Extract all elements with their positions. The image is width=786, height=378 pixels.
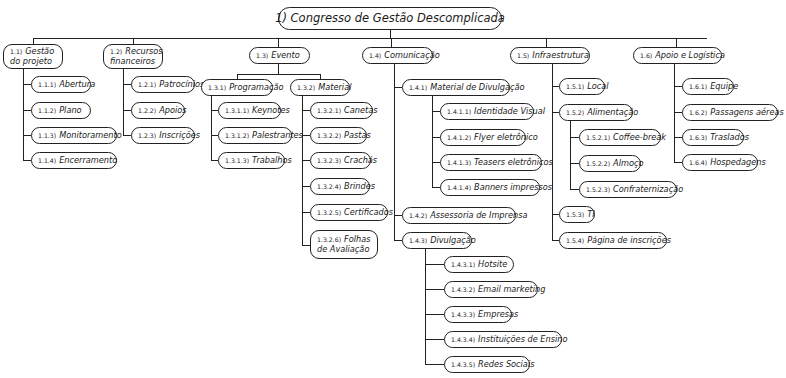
wbs-node-1-3-2-6[interactable]: 1.3.2.6)Folhas de Avaliação bbox=[310, 230, 378, 259]
wbs-node-1-6-3[interactable]: 1.6.3)Traslados bbox=[682, 129, 744, 146]
node-number: 1.3.2.2) bbox=[317, 132, 341, 139]
connector bbox=[432, 162, 440, 163]
connector bbox=[425, 264, 444, 265]
connector bbox=[570, 189, 579, 190]
node-label: 1.2)Recursos financeiros bbox=[110, 47, 163, 66]
node-label: Material de Divulgação bbox=[430, 83, 524, 92]
wbs-node-1-1-1[interactable]: 1.1.1)Abertura bbox=[31, 76, 91, 93]
wbs-node-1-4-3-4[interactable]: 1.4.3.4)Instituições de Ensino bbox=[444, 331, 562, 348]
wbs-node-1-5-1[interactable]: 1.5.1)Local bbox=[559, 78, 605, 95]
wbs-node-1-5[interactable]: 1.5)Infraestrutura bbox=[510, 47, 590, 64]
wbs-node-1-5-2-3[interactable]: 1.5.2.3)Confraternização bbox=[579, 181, 677, 198]
wbs-node-1-3-2-2[interactable]: 1.3.2.2)Pastas bbox=[310, 127, 367, 144]
wbs-node-1-4-1-3[interactable]: 1.4.1.3)Teasers eletrônicos bbox=[440, 154, 542, 171]
connector bbox=[394, 64, 395, 240]
wbs-node-1-3-2-4[interactable]: 1.3.2.4)Brindes bbox=[310, 178, 370, 195]
node-label: Programação bbox=[229, 83, 283, 92]
node-label: Keynotes bbox=[252, 106, 290, 115]
node-label: Inscrições bbox=[159, 131, 200, 140]
node-label: Email marketing bbox=[478, 285, 545, 294]
node-label: Apoios bbox=[159, 106, 186, 115]
wbs-node-1-5-2[interactable]: 1.5.2)Alimentação bbox=[559, 104, 633, 121]
wbs-node-1-6[interactable]: 1.6)Apoio e Logística bbox=[633, 47, 722, 64]
connector bbox=[302, 245, 310, 246]
wbs-node-1-3-2-1[interactable]: 1.3.2.1)Canetas bbox=[310, 102, 373, 119]
node-number: 1.6.1) bbox=[689, 83, 707, 90]
node-label: Assessoria de Imprensa bbox=[430, 211, 527, 220]
node-number: 1.4.3) bbox=[409, 237, 427, 244]
wbs-node-1-3-2-3[interactable]: 1.3.2.3)Crachás bbox=[310, 152, 371, 169]
connector bbox=[674, 137, 682, 138]
connector bbox=[432, 111, 440, 112]
node-number: 1.1.4) bbox=[38, 157, 56, 164]
node-number: 1.4.3.4) bbox=[451, 336, 475, 343]
wbs-node-1-4-1-2[interactable]: 1.4.1.2)Flyer eletrônico bbox=[440, 129, 526, 146]
connector bbox=[546, 38, 547, 47]
wbs-node-1-5-3[interactable]: 1.5.3)TI bbox=[559, 206, 595, 223]
connector bbox=[394, 240, 402, 241]
wbs-node-1-4-3[interactable]: 1.4.3)Divulgação bbox=[402, 232, 472, 249]
node-label: Apoio e Logística bbox=[655, 51, 725, 60]
connector bbox=[123, 68, 124, 135]
connector bbox=[570, 137, 579, 138]
node-number: 1.4.1.4) bbox=[447, 184, 471, 191]
node-number: 1.3.2.1) bbox=[317, 107, 341, 114]
wbs-node-1-4-1[interactable]: 1.4.1)Material de Divulgação bbox=[402, 79, 510, 96]
wbs-node-1-6-2[interactable]: 1.6.2)Passagens aéreas bbox=[682, 104, 778, 121]
wbs-node-1-6-4[interactable]: 1.6.4)Hospedagens bbox=[682, 154, 758, 171]
wbs-node-1-5-4[interactable]: 1.5.4)Página de inscrições bbox=[559, 232, 667, 249]
wbs-node-1-1-4[interactable]: 1.1.4)Encerramento bbox=[31, 152, 117, 169]
connector bbox=[425, 249, 426, 364]
wbs-node-1-2-3[interactable]: 1.2.3)Inscrições bbox=[131, 127, 195, 144]
node-label: 1.1)Gestão do projeto bbox=[10, 47, 56, 66]
wbs-node-1-6-1[interactable]: 1.6.1)Equipe bbox=[682, 78, 734, 95]
node-number: 1.5.2.2) bbox=[586, 160, 610, 167]
node-number: 1.4.2) bbox=[409, 212, 427, 219]
node-label: Hospedagens bbox=[710, 158, 766, 167]
wbs-node-1-1-3[interactable]: 1.1.3)Monitoramento bbox=[31, 127, 117, 144]
wbs-node-1-3-1[interactable]: 1.3.1)Programação bbox=[201, 79, 273, 96]
wbs-node-1-3-2-5[interactable]: 1.3.2.5)Certificados bbox=[310, 204, 388, 221]
wbs-node-1-4[interactable]: 1.4)Comunicação bbox=[362, 47, 433, 64]
connector bbox=[237, 74, 320, 75]
wbs-node-1-1[interactable]: 1.1)Gestão do projeto bbox=[3, 44, 63, 69]
wbs-node-1-5-2-1[interactable]: 1.5.2.1)Coffee-break bbox=[579, 129, 661, 146]
connector bbox=[23, 135, 31, 136]
wbs-node-1-3-1-1[interactable]: 1.3.1.1)Keynotes bbox=[218, 102, 281, 119]
node-number: 1.5.3) bbox=[566, 211, 584, 218]
node-number: 1.5.4) bbox=[566, 237, 584, 244]
wbs-node-1-1-2[interactable]: 1.1.2)Plano bbox=[31, 102, 91, 119]
wbs-node-1-5-2-2[interactable]: 1.5.2.2)Almoço bbox=[579, 155, 641, 172]
wbs-node-1-4-2[interactable]: 1.4.2)Assessoria de Imprensa bbox=[402, 207, 516, 224]
wbs-node-1-3-1-2[interactable]: 1.3.1.2)Palestrantes bbox=[218, 127, 292, 144]
wbs-root-node[interactable]: 1) Congresso de Gestão Descomplicada bbox=[278, 7, 502, 30]
wbs-node-1-4-3-5[interactable]: 1.4.3.5)Redes Sociais bbox=[444, 356, 530, 373]
wbs-node-1-2-2[interactable]: 1.2.2)Apoios bbox=[131, 102, 185, 119]
node-number: 1.2.1) bbox=[138, 81, 156, 88]
wbs-node-1-4-3-3[interactable]: 1.4.3.3)Empresas bbox=[444, 306, 512, 323]
node-label: Alimentação bbox=[587, 108, 638, 117]
node-label: Equipe bbox=[710, 82, 738, 91]
node-number: 1.2.3) bbox=[138, 132, 156, 139]
node-number: 1.1.2) bbox=[38, 107, 56, 114]
connector bbox=[302, 135, 310, 136]
wbs-node-1-2-1[interactable]: 1.2.1)Patrocínios bbox=[131, 76, 195, 93]
wbs-node-1-4-3-1[interactable]: 1.4.3.1)Hotsite bbox=[444, 256, 514, 273]
connector bbox=[390, 30, 391, 38]
node-label: Identidade Visual bbox=[474, 107, 545, 116]
node-number: 1.4.3.2) bbox=[451, 286, 475, 293]
wbs-node-1-4-1-1[interactable]: 1.4.1.1)Identidade Visual bbox=[440, 103, 534, 120]
wbs-node-1-2[interactable]: 1.2)Recursos financeiros bbox=[103, 44, 163, 69]
node-label: Canetas bbox=[344, 106, 377, 115]
wbs-node-1-4-1-4[interactable]: 1.4.1.4)Banners impressos bbox=[440, 179, 540, 196]
wbs-node-1-4-3-2[interactable]: 1.4.3.2)Email marketing bbox=[444, 281, 538, 298]
node-label: 1.3.2.6)Folhas de Avaliação bbox=[317, 235, 371, 254]
node-label: Instituições de Ensino bbox=[478, 335, 567, 344]
wbs-node-1-3[interactable]: 1.3)Evento bbox=[249, 47, 310, 64]
node-label: Crachás bbox=[344, 156, 377, 165]
wbs-node-1-3-2[interactable]: 1.3.2)Material bbox=[290, 79, 350, 96]
connector bbox=[425, 314, 444, 315]
connector bbox=[302, 95, 303, 245]
connector bbox=[674, 86, 682, 87]
wbs-node-1-3-1-3[interactable]: 1.3.1.3)Trabalhos bbox=[218, 152, 285, 169]
